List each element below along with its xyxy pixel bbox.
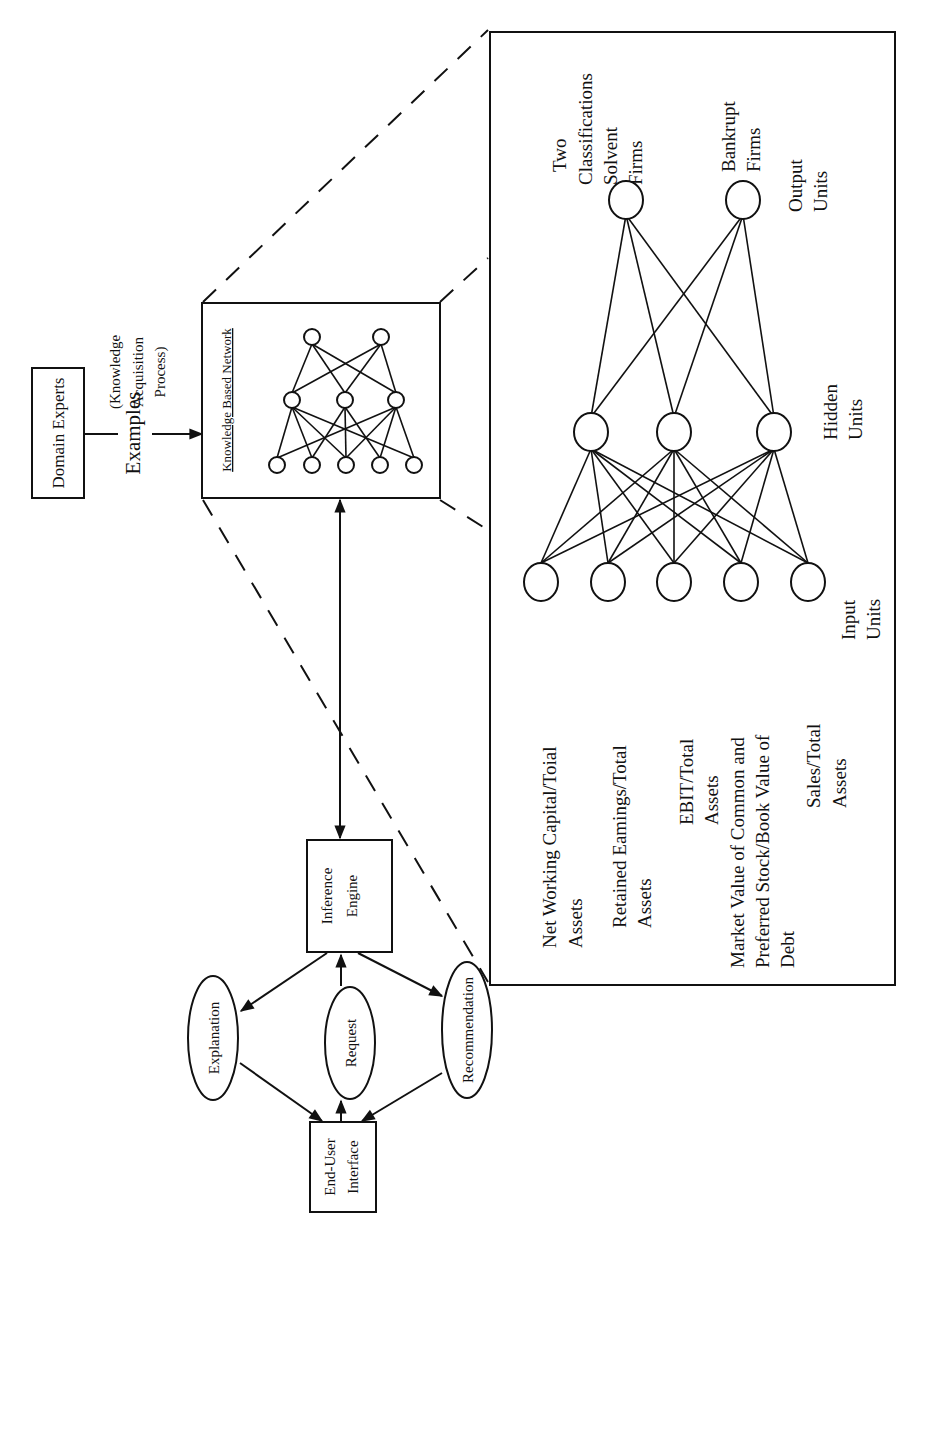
input-node-2 [591, 563, 625, 601]
kbn-input-node-4 [372, 457, 388, 473]
hidden-node-2 [657, 413, 691, 451]
solvent-firms-line-1: Solvent [600, 126, 621, 185]
kbn-output-node-2 [373, 329, 389, 345]
recommendation-node: Recommendation [442, 962, 492, 1098]
domain-experts-node: Domain Experts [32, 368, 84, 498]
kbn-edge-ih-6 [345, 407, 346, 458]
input-units-line-2: Units [863, 599, 884, 640]
kbn-input-node-5 [406, 457, 422, 473]
bankrupt-firms-line-1: Bankrupt [718, 101, 739, 172]
end-user-interface-box [310, 1122, 376, 1212]
arrow-explanation-to-interface [240, 1063, 322, 1121]
knowledge-acquisition-line-2: Acquisition [130, 337, 146, 407]
request-node: Request [325, 987, 375, 1099]
arrow-engine-to-recommendation [358, 953, 442, 996]
end-user-interface-line-2: Interface [345, 1140, 361, 1194]
kbn-hidden-node-1 [284, 392, 300, 408]
knowledge-acquisition-line-3: Process) [152, 347, 169, 398]
input-label-4-line-3: Debt [777, 930, 798, 968]
expert-system-diagram: Domain Experts Examples (Knowledge Acqui… [0, 0, 927, 1439]
inference-engine-line-1: Inference [319, 867, 335, 924]
input-label-4-line-1: Market Value of Common and [727, 737, 748, 968]
output-header-line-1: Two [549, 138, 570, 172]
input-label-5-line-2: Assets [829, 758, 850, 808]
input-node-3 [657, 563, 691, 601]
kbn-input-node-2 [304, 457, 320, 473]
input-label-3-line-2: Assets [701, 775, 722, 825]
arrow-recommendation-to-interface [362, 1073, 442, 1121]
hidden-node-1 [574, 413, 608, 451]
inference-engine-node: Inference Engine [307, 840, 392, 952]
inference-engine-line-2: Engine [344, 874, 360, 917]
input-node-4 [724, 563, 758, 601]
knowledge-acquisition-line-1: (Knowledge [107, 335, 124, 409]
input-label-1-line-1: Net Working Capital/Toial [539, 746, 560, 948]
hidden-units-line-2: Units [845, 399, 866, 440]
hidden-node-3 [757, 413, 791, 451]
kbn-input-node-3 [338, 457, 354, 473]
output-node-2 [726, 181, 760, 219]
output-units-line-1: Output [785, 159, 806, 213]
end-user-interface-node: End-User Interface [310, 1122, 376, 1212]
explanation-node: Explanation [188, 976, 238, 1100]
hidden-units-line-1: Hidden [820, 384, 841, 440]
knowledge-acquisition-label: (Knowledge Acquisition Process) [107, 335, 169, 409]
input-label-5-line-1: Sales/Total [803, 724, 824, 808]
projection-line-top-right [440, 258, 488, 302]
bankrupt-firms-line-2: Firms [743, 128, 764, 172]
projection-line-bottom-right [440, 500, 488, 530]
input-node-5 [791, 563, 825, 601]
kbn-output-node-1 [304, 329, 320, 345]
request-label: Request [343, 1018, 359, 1067]
input-label-1-line-2: Assets [565, 898, 586, 948]
knowledge-based-network: Knowledge Based Network [202, 303, 440, 498]
input-units-line-1: Input [838, 599, 859, 640]
domain-experts-label: Domain Experts [49, 378, 68, 489]
input-label-2-line-2: Assets [634, 878, 655, 928]
output-node-1 [609, 181, 643, 219]
input-label-3-line-1: EBIT/Total [676, 739, 697, 825]
arrow-engine-to-explanation [241, 953, 327, 1011]
kbn-hidden-node-2 [337, 392, 353, 408]
input-label-2-line-1: Retained Eamings/Total [609, 745, 630, 928]
input-label-4-line-2: Preferred Stock/Book Value of [752, 734, 773, 968]
kbn-hidden-node-3 [388, 392, 404, 408]
output-header-line-2: Classifications [575, 73, 596, 185]
explanation-label: Explanation [206, 1001, 222, 1074]
recommendation-label: Recommendation [460, 977, 476, 1083]
end-user-interface-line-1: End-User [322, 1138, 338, 1195]
input-node-1 [524, 563, 558, 601]
output-units-line-2: Units [810, 171, 831, 212]
projection-line-top-left [203, 30, 488, 302]
kbn-title: Knowledge Based Network [219, 328, 234, 472]
detail-network-panel: Two Classifications Solvent Firms Bankru… [490, 32, 895, 985]
kbn-input-node-1 [269, 457, 285, 473]
solvent-firms-line-2: Firms [625, 141, 646, 185]
